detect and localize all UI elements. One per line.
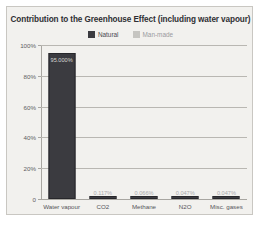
y-tick-mark-0 [38,199,41,200]
bar-slot-co2: 0.117% [82,45,123,199]
chart-card: Contribution to the Greenhouse Effect (i… [6,6,253,215]
x-axis-labels: Water vapour CO2 Methane N2O Misc. gases [41,203,247,210]
legend-swatch-natural [88,31,95,38]
bar-value-co2: 0.117% [94,190,113,196]
bar-value-water-vapour: 95.000% [51,57,73,63]
y-tick-label-20: 20% [24,165,36,172]
bar-water-vapour[interactable]: 95.000% [48,53,75,199]
legend-swatch-man-made [133,31,140,38]
legend-item-natural[interactable]: Natural [88,31,119,38]
bar-value-misc-gases: 0.047% [217,190,236,196]
plot-area: 100% 80% 60% 40% 20% 0 95.000% 0.117% 0.… [41,45,247,199]
y-tick-label-80: 80% [24,72,36,79]
x-label-n2o: N2O [165,203,206,210]
x-label-methane: Methane [123,203,164,210]
legend-label-natural: Natural [98,31,119,38]
y-tick-label-0: 0 [33,196,36,203]
y-tick-label-60: 60% [24,103,36,110]
bar-slot-n2o: 0.047% [165,45,206,199]
chart-title: Contribution to the Greenhouse Effect (i… [7,15,254,24]
bar-misc-gases[interactable]: 0.047% [213,196,240,199]
gridline-0 [41,199,247,200]
bar-value-n2o: 0.047% [176,190,195,196]
legend-item-man-made[interactable]: Man-made [133,31,174,38]
x-label-co2: CO2 [82,203,123,210]
bar-slot-methane: 0.066% [123,45,164,199]
x-label-misc-gases: Misc. gases [206,203,247,210]
bar-methane[interactable]: 0.066% [131,196,158,199]
bar-slot-water-vapour: 95.000% [41,45,82,199]
y-tick-label-100: 100% [20,42,36,49]
x-label-water-vapour: Water vapour [41,203,82,210]
bar-n2o[interactable]: 0.047% [172,196,199,199]
y-tick-label-40: 40% [24,134,36,141]
bar-co2[interactable]: 0.117% [89,196,116,199]
bar-value-methane: 0.066% [135,190,154,196]
chart-legend: Natural Man-made [7,31,254,38]
legend-label-man-made: Man-made [143,31,174,38]
bar-group: 95.000% 0.117% 0.066% 0.047% 0.0 [41,45,247,199]
bar-slot-misc-gases: 0.047% [206,45,247,199]
